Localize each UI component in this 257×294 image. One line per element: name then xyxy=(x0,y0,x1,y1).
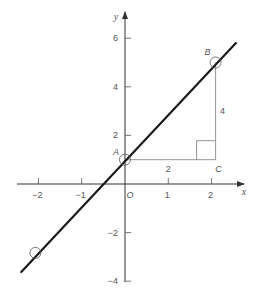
y-tick-label: 2 xyxy=(113,130,118,140)
point-b-label: B xyxy=(205,47,211,57)
y-tick-label: 6 xyxy=(113,33,118,43)
x-tick-label: −1 xyxy=(76,190,86,200)
x-tick-label: 1 xyxy=(165,190,170,200)
run-label: 2 xyxy=(166,164,171,174)
x-axis-label: x xyxy=(241,186,247,197)
right-angle-marker xyxy=(197,141,216,160)
y-tick-label: 4 xyxy=(113,82,118,92)
x-tick-label: O xyxy=(126,190,133,200)
point-a-label: A xyxy=(112,147,119,157)
x-tick-label: −2 xyxy=(32,190,42,200)
y-tick-label: −4 xyxy=(108,276,118,286)
series-line xyxy=(21,43,236,272)
x-tick-label: 2 xyxy=(208,190,213,200)
rise-label: 4 xyxy=(220,106,225,116)
line-graph: −2−1O12642−2−4xy 24C AB xyxy=(0,0,257,294)
y-axis-label: y xyxy=(113,11,119,22)
point-c-label: C xyxy=(215,164,222,174)
y-tick-label: −2 xyxy=(108,228,118,238)
